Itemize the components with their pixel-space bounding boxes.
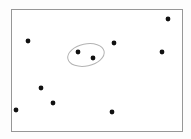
data-point	[91, 56, 96, 61]
data-point	[112, 41, 117, 46]
data-point	[14, 108, 19, 113]
data-point	[39, 86, 44, 91]
scatter-figure	[0, 0, 191, 139]
data-point	[76, 50, 81, 55]
plot-canvas	[0, 0, 191, 139]
data-point	[160, 50, 165, 55]
data-point	[51, 101, 56, 106]
plot-frame	[12, 10, 183, 132]
data-point	[110, 110, 115, 115]
data-point	[26, 39, 31, 44]
data-point	[166, 17, 171, 22]
